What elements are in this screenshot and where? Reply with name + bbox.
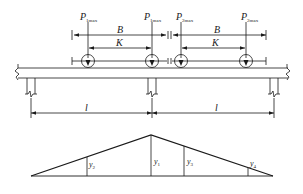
load-arrow-1 (86, 60, 91, 66)
span-label-right: l (215, 102, 218, 113)
influence-line (31, 135, 273, 176)
load-label-4: P2max (240, 11, 259, 23)
span-label-left: l (85, 102, 88, 113)
load-label-1: P1max (79, 11, 98, 23)
support-right (268, 78, 280, 97)
dimension-B-label-right: B (214, 24, 220, 35)
support-left (25, 78, 37, 97)
crane-beam-influence-diagram: P1max P1max P2max P2max B B K K l l y2 y… (0, 0, 303, 194)
support-middle (146, 78, 158, 97)
dimension-B-label-left: B (117, 24, 123, 35)
ordinate-label-y2: y2 (88, 160, 96, 170)
load-arrow-3 (179, 60, 184, 66)
load-arrow-4 (244, 60, 249, 66)
dimension-K-label-left: K (115, 37, 124, 48)
ordinate-label-y4: y4 (249, 159, 257, 169)
ordinate-label-y3: y3 (186, 157, 194, 167)
dimension-K-label-right: K (211, 37, 220, 48)
ordinate-label-y1: y1 (153, 157, 161, 167)
load-label-3: P2max (175, 11, 194, 23)
load-label-2: P1max (143, 11, 162, 23)
load-arrow-2 (150, 60, 155, 66)
